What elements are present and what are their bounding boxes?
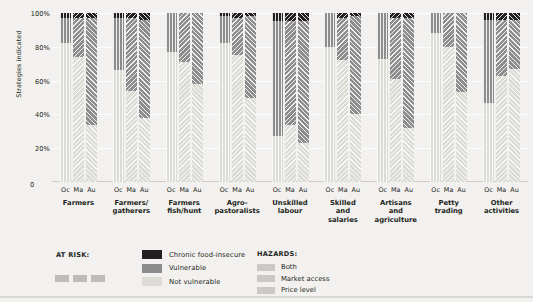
x-tick-label-au: Au <box>509 186 520 194</box>
stacked-bar[interactable] <box>496 13 507 182</box>
x-category-label: Farmersfish/hunt <box>158 199 211 224</box>
segment-not-vulnerable <box>126 91 137 182</box>
x-tick-label-ma: Ma <box>496 186 507 194</box>
segment-not-vulnerable <box>390 79 401 182</box>
legend-risk-label: Not vulnerable <box>169 278 221 286</box>
x-category-label: Farmers <box>52 199 105 224</box>
x-tick-label-au: Au <box>245 186 256 194</box>
stacked-bar[interactable] <box>166 13 177 182</box>
bar-group <box>52 13 105 182</box>
legend-hazard-row: Both <box>257 262 329 274</box>
stacked-bar[interactable] <box>403 13 414 182</box>
x-tick-label-ma: Ma <box>443 186 454 194</box>
segment-not-vulnerable <box>179 62 190 182</box>
y-tick-40: 40% <box>16 111 50 119</box>
x-tick-group: OcMaAu <box>369 186 422 194</box>
segment-not-vulnerable <box>219 43 230 182</box>
x-tick-label-oc: Oc <box>377 186 388 194</box>
segment-not-vulnerable <box>86 125 97 182</box>
x-tick-label-ma: Ma <box>126 186 137 194</box>
x-category-label: Agro-pastoralists <box>211 199 264 224</box>
x-category-label: Unskilledlabour <box>264 199 317 224</box>
segment-vulnerable <box>430 13 441 33</box>
stacked-bar[interactable] <box>443 13 454 182</box>
x-tick-group: OcMaAu <box>52 186 105 194</box>
segment-not-vulnerable <box>192 84 203 182</box>
bar-group <box>475 13 528 182</box>
segment-not-vulnerable <box>232 55 243 182</box>
x-axis-subcategory-ticks: OcMaAuOcMaAuOcMaAuOcMaAuOcMaAuOcMaAuOcMa… <box>52 186 528 194</box>
bar-groups <box>52 13 528 182</box>
legend-hazard-label: Both <box>281 263 297 271</box>
segment-vulnerable <box>245 16 256 97</box>
stacked-bar[interactable] <box>113 13 124 182</box>
stacked-bar[interactable] <box>509 13 520 182</box>
stacked-bar[interactable] <box>126 13 137 182</box>
stacked-bar[interactable] <box>298 13 309 182</box>
stacked-bar[interactable] <box>245 13 256 182</box>
stacked-bar[interactable] <box>285 13 296 182</box>
segment-not-vulnerable <box>509 69 520 182</box>
stacked-bar[interactable] <box>232 13 243 182</box>
segment-vulnerable <box>232 18 243 55</box>
x-tick-label-oc: Oc <box>483 186 494 194</box>
stacked-bar[interactable] <box>350 13 361 182</box>
stacked-bar[interactable] <box>483 13 494 182</box>
segment-chronic-food-insecure <box>483 13 494 20</box>
legend-risk-row: Not vulnerable <box>142 275 245 289</box>
y-tick-zero: 0 <box>30 181 34 189</box>
bar-group <box>158 13 211 182</box>
stacked-bar[interactable] <box>219 13 230 182</box>
y-tick-100: 100% <box>16 10 50 18</box>
stacked-bar[interactable] <box>324 13 335 182</box>
x-tick-label-oc: Oc <box>166 186 177 194</box>
y-axis: Strategies indicated 100% 80% 60% 40% 20… <box>6 0 50 200</box>
segment-not-vulnerable <box>272 136 283 182</box>
footer-divider <box>0 296 533 298</box>
legend-swatch-icon <box>142 264 162 273</box>
segment-vulnerable <box>179 13 190 62</box>
stacked-bar[interactable] <box>377 13 388 182</box>
segment-vulnerable <box>337 18 348 60</box>
stacked-bar[interactable] <box>337 13 348 182</box>
legend-risk-label: Vulnerable <box>169 264 206 272</box>
stacked-bar[interactable] <box>86 13 97 182</box>
segment-chronic-food-insecure <box>509 13 520 20</box>
legend-at-risk-sample-icon <box>91 275 105 282</box>
segment-vulnerable <box>139 20 150 118</box>
segment-not-vulnerable <box>443 47 454 182</box>
x-tick-group: OcMaAu <box>316 186 369 194</box>
x-tick-group: OcMaAu <box>158 186 211 194</box>
plot-panel <box>52 13 528 182</box>
x-tick-label-ma: Ma <box>73 186 84 194</box>
segment-not-vulnerable <box>377 59 388 182</box>
legend-at-risk-sample-icon <box>73 275 87 282</box>
segment-vulnerable <box>285 21 296 124</box>
x-tick-label-ma: Ma <box>179 186 190 194</box>
stacked-bar[interactable] <box>73 13 84 182</box>
segment-vulnerable <box>219 16 230 43</box>
x-tick-label-au: Au <box>298 186 309 194</box>
segment-not-vulnerable <box>324 47 335 182</box>
stacked-bar[interactable] <box>456 13 467 182</box>
x-category-label: Otheractivities <box>475 199 528 224</box>
stacked-bar[interactable] <box>390 13 401 182</box>
x-tick-label-au: Au <box>403 186 414 194</box>
y-tick-60: 60% <box>16 78 50 86</box>
stacked-bar[interactable] <box>179 13 190 182</box>
segment-not-vulnerable <box>456 92 467 182</box>
x-tick-label-oc: Oc <box>219 186 230 194</box>
bar-group <box>422 13 475 182</box>
bar-group <box>264 13 317 182</box>
stacked-bar[interactable] <box>60 13 71 182</box>
segment-chronic-food-insecure <box>272 13 283 21</box>
segment-chronic-food-insecure <box>139 13 150 20</box>
x-category-label: Artisansandagriculture <box>369 199 422 224</box>
stacked-bar[interactable] <box>272 13 283 182</box>
stacked-bar[interactable] <box>139 13 150 182</box>
segment-vulnerable <box>324 13 335 47</box>
segment-vulnerable <box>126 18 137 91</box>
stacked-bar[interactable] <box>192 13 203 182</box>
stacked-bar[interactable] <box>430 13 441 182</box>
x-tick-group: OcMaAu <box>211 186 264 194</box>
